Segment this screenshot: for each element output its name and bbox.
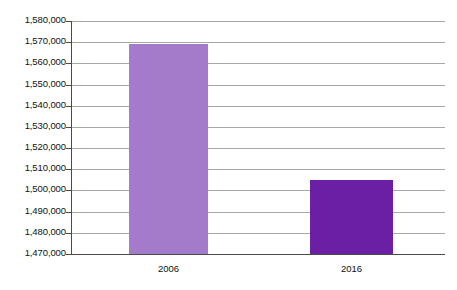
y-axis-label: 1,550,000: [0, 79, 66, 89]
gridline: [71, 169, 445, 170]
y-axis-label: 1,500,000: [0, 184, 66, 194]
axis-baseline: [71, 254, 445, 255]
gridline: [71, 127, 445, 128]
y-axis-label: 1,490,000: [0, 206, 66, 216]
y-axis-tick: [66, 148, 71, 149]
y-axis-label: 1,540,000: [0, 100, 66, 110]
y-axis-line: [71, 21, 72, 255]
y-axis-label: 1,480,000: [0, 227, 66, 237]
bar-chart: 1,580,0001,570,0001,560,0001,550,0001,54…: [0, 0, 457, 290]
y-axis-tick: [66, 190, 71, 191]
y-axis-tick: [66, 42, 71, 43]
y-axis-label: 1,510,000: [0, 163, 66, 173]
y-axis-tick: [66, 127, 71, 128]
y-axis-label: 1,520,000: [0, 142, 66, 152]
gridline: [71, 63, 445, 64]
y-axis-label: 1,580,000: [0, 15, 66, 25]
gridline: [71, 106, 445, 107]
y-axis-tick: [66, 85, 71, 86]
y-axis-label: 1,530,000: [0, 121, 66, 131]
y-axis-tick: [66, 63, 71, 64]
gridline: [71, 148, 445, 149]
y-axis-tick: [66, 106, 71, 107]
gridline: [71, 21, 445, 22]
y-axis-tick: [66, 254, 71, 255]
gridline: [71, 42, 445, 43]
bar-2016: [310, 180, 393, 254]
y-axis-label: 1,470,000: [0, 248, 66, 258]
y-axis-label: 1,560,000: [0, 57, 66, 67]
y-axis-tick: [66, 21, 71, 22]
gridline: [71, 85, 445, 86]
x-axis-label-2016: 2016: [322, 263, 382, 274]
bar-2006: [129, 44, 208, 254]
y-axis-label: 1,570,000: [0, 36, 66, 46]
y-axis-tick: [66, 212, 71, 213]
y-axis-tick: [66, 233, 71, 234]
x-axis-label-2006: 2006: [139, 263, 199, 274]
y-axis-tick: [66, 169, 71, 170]
